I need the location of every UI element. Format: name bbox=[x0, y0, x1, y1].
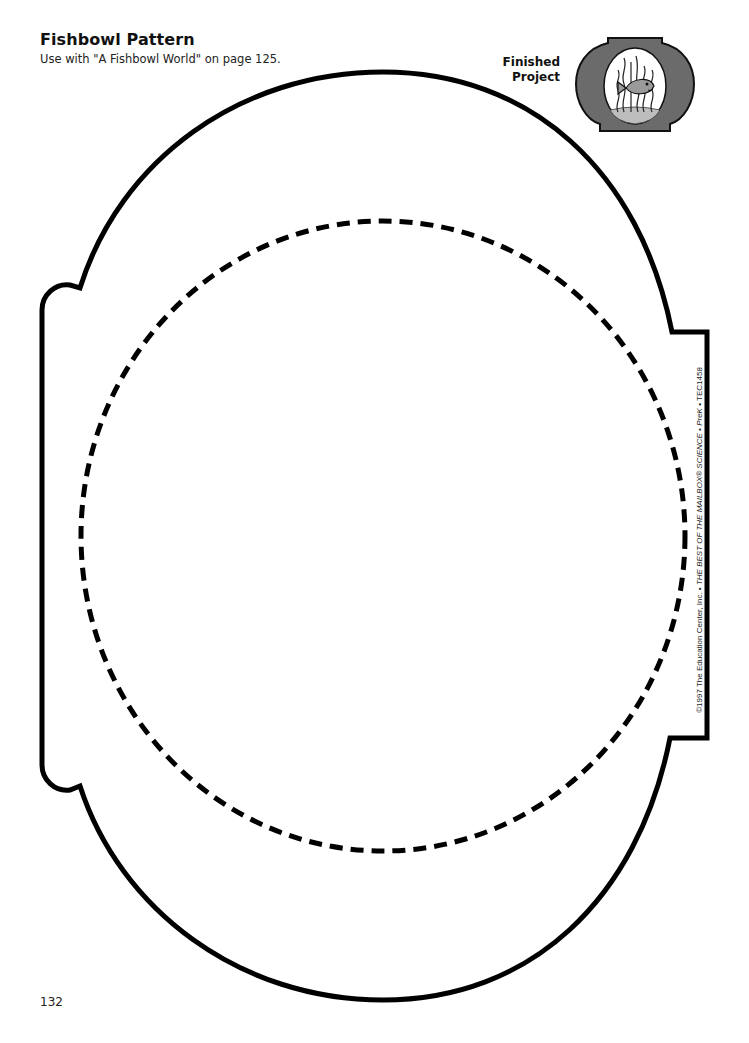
page-number: 132 bbox=[40, 995, 63, 1009]
copyright-suffix: • TEC1458 bbox=[695, 367, 704, 408]
dashed-circle-cut-line bbox=[81, 221, 685, 851]
copyright-title: THE BEST OF THE MAILBOX® SCIENCE • PreK bbox=[695, 408, 704, 585]
solid-bowl-outline bbox=[42, 72, 707, 1000]
copyright-notice: ©1997 The Education Center, Inc. • THE B… bbox=[695, 367, 704, 713]
fishbowl-pattern bbox=[0, 0, 749, 1043]
copyright-prefix: ©1997 The Education Center, Inc. • bbox=[695, 585, 704, 713]
